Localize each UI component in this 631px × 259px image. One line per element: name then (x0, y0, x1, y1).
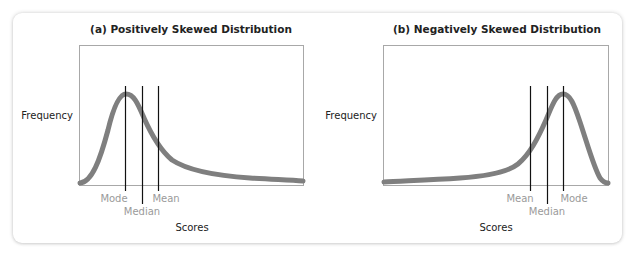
panel-b-title: (b) Negatively Skewed Distribution (393, 23, 601, 35)
panel-a-mean-label: Mean (152, 193, 179, 204)
panel-a-median-label: Median (124, 206, 160, 217)
panel-b-y-axis-label: Frequency (325, 110, 377, 121)
panel-a-x-axis-label: Scores (175, 222, 208, 233)
panel-a-title: (a) Positively Skewed Distribution (90, 23, 292, 35)
panel-a-distribution-curve (80, 94, 303, 183)
skew-figure: (a) Positively Skewed Distribution Frequ… (0, 0, 631, 259)
panel-a-mode-label: Mode (100, 193, 127, 204)
panel-b-median-label: Median (529, 206, 565, 217)
panel-positively-skewed: (a) Positively Skewed Distribution Frequ… (21, 23, 303, 233)
panel-b-plot-frame (384, 46, 609, 186)
panel-a-y-axis-label: Frequency (21, 110, 73, 121)
panel-b-mode-label: Mode (560, 193, 587, 204)
panel-b-mean-label: Mean (506, 193, 533, 204)
panel-negatively-skewed: (b) Negatively Skewed Distribution Frequ… (325, 23, 608, 233)
panel-b-distribution-curve (384, 94, 608, 183)
panel-b-x-axis-label: Scores (479, 222, 512, 233)
